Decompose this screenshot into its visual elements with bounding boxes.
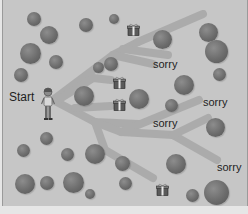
tree-icon bbox=[129, 89, 149, 109]
tree-icon bbox=[213, 68, 226, 81]
tree-icon bbox=[174, 75, 194, 95]
tree-icon bbox=[79, 18, 93, 32]
sorry-label: sorry bbox=[203, 97, 227, 108]
sorry-label: sorry bbox=[153, 118, 177, 129]
tree-icon bbox=[93, 62, 104, 73]
tree-icon bbox=[40, 176, 54, 190]
tree-icon bbox=[104, 57, 118, 71]
tree-icon bbox=[40, 132, 53, 145]
tree-icon bbox=[119, 177, 132, 190]
tree-icon bbox=[85, 144, 105, 164]
tree-icon bbox=[206, 118, 225, 137]
tree-icon bbox=[205, 40, 228, 63]
sorry-label: sorry bbox=[217, 162, 241, 173]
tree-icon bbox=[109, 14, 119, 24]
sorry-label: sorry bbox=[153, 59, 177, 70]
gift-box-icon[interactable] bbox=[156, 183, 169, 196]
tree-icon bbox=[165, 99, 178, 112]
gift-box-icon[interactable] bbox=[127, 23, 140, 36]
tree-icon bbox=[40, 26, 58, 44]
tree-icon bbox=[63, 172, 84, 193]
tree-icon bbox=[186, 189, 199, 202]
tree-icon bbox=[166, 154, 186, 174]
gift-box-icon[interactable] bbox=[113, 76, 126, 89]
tree-icon bbox=[14, 68, 28, 82]
start-label: Start bbox=[9, 91, 34, 103]
tree-icon bbox=[85, 189, 95, 199]
child-figure-icon[interactable] bbox=[41, 87, 55, 121]
tree-icon bbox=[49, 55, 63, 69]
tree-icon bbox=[15, 174, 35, 194]
tree-icon bbox=[74, 86, 94, 106]
tree-icon bbox=[17, 144, 30, 157]
tree-icon bbox=[153, 30, 172, 49]
gift-box-icon[interactable] bbox=[113, 98, 126, 111]
tree-icon bbox=[204, 180, 229, 205]
tree-icon bbox=[20, 43, 41, 64]
tree-icon bbox=[27, 12, 41, 26]
tree-icon bbox=[61, 148, 74, 161]
tree-icon bbox=[115, 156, 130, 171]
maze-scene: sorrysorrysorrysorry Start bbox=[2, 0, 248, 206]
